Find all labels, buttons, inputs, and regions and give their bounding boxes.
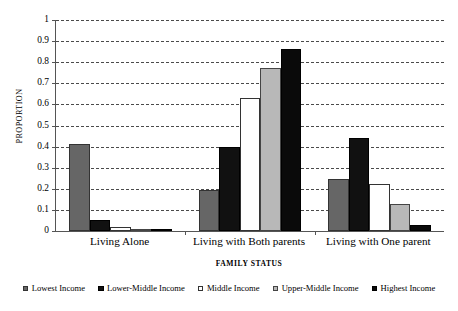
group-separator-tick: [315, 231, 316, 235]
y-axis-tick-label: 0.2: [37, 184, 49, 193]
legend-swatch-icon: [198, 286, 204, 292]
legend-item[interactable]: Highest Income: [372, 284, 436, 293]
bar: [349, 138, 370, 231]
bar-chart: PROPORTION 10.90.80.70.60.50.40.30.20.10…: [0, 0, 458, 311]
y-axis-tick-label: 1: [44, 15, 49, 24]
y-axis-tick-label: 0.8: [37, 57, 49, 66]
bar: [240, 98, 261, 231]
x-axis-title: FAMILY STATUS: [55, 259, 443, 268]
y-axis-tick-label: 0.4: [37, 142, 49, 151]
bar: [410, 225, 431, 231]
y-axis-tick-label: 0.6: [37, 100, 49, 109]
bar: [390, 204, 411, 231]
x-axis-label: Living with Both parents: [193, 236, 305, 247]
legend-swatch-icon: [372, 286, 378, 292]
y-axis-tick-label: 0.7: [37, 79, 49, 88]
legend-label: Lower-Middle Income: [107, 284, 185, 293]
legend-item[interactable]: Middle Income: [198, 284, 260, 293]
y-axis-tick-label: 0.3: [37, 163, 49, 172]
legend-item[interactable]: Lowest Income: [23, 284, 85, 293]
bar: [260, 68, 281, 231]
y-axis-tick-label: 0.1: [37, 205, 49, 214]
legend-label: Middle Income: [207, 284, 260, 293]
bar: [90, 220, 111, 231]
bar: [131, 229, 152, 231]
y-axis-tick-label: 0.9: [37, 36, 49, 45]
chart-legend: Lowest IncomeLower-Middle IncomeMiddle I…: [0, 284, 458, 293]
bar: [219, 147, 240, 231]
y-axis-tick-label: 0.5: [37, 121, 49, 130]
plot-area: 10.90.80.70.60.50.40.30.20.10: [55, 20, 444, 232]
x-axis-label: Living with One parent: [326, 236, 431, 247]
legend-label: Upper-Middle Income: [282, 284, 359, 293]
bars-group: [56, 20, 444, 231]
y-axis-title: PROPORTION: [12, 0, 26, 232]
legend-swatch-icon: [23, 286, 29, 292]
y-axis-tick-label: 0: [44, 226, 49, 235]
legend-swatch-icon: [98, 286, 104, 292]
bar: [199, 190, 220, 231]
group-separator-tick: [185, 231, 186, 235]
bar: [369, 184, 390, 231]
bar: [69, 144, 90, 231]
bar: [328, 179, 349, 231]
legend-item[interactable]: Upper-Middle Income: [273, 284, 359, 293]
legend-swatch-icon: [273, 286, 279, 292]
y-axis-tick: [52, 231, 56, 232]
x-axis-category-labels: Living AloneLiving with Both parentsLivi…: [55, 236, 443, 254]
legend-label: Highest Income: [381, 284, 436, 293]
bar: [151, 229, 172, 231]
legend-item[interactable]: Lower-Middle Income: [98, 284, 185, 293]
bar: [110, 227, 131, 231]
legend-label: Lowest Income: [32, 284, 85, 293]
x-axis-label: Living Alone: [90, 236, 149, 247]
bar: [281, 49, 302, 231]
